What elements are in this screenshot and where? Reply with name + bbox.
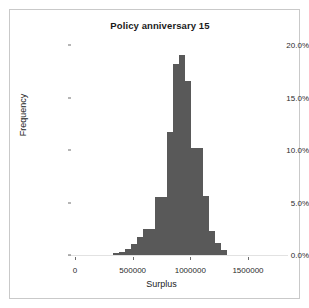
- x-tick-mark-3: [248, 257, 249, 260]
- y-tick-mark-0: [68, 255, 71, 256]
- y-tick-label-2: 10.0%: [263, 146, 309, 155]
- y-tick-mark-4: [68, 45, 71, 46]
- y-tick-mark-2: [68, 150, 71, 151]
- y-tick-mark-1: [68, 202, 71, 203]
- histogram-figure: Policy anniversary 15 Frequency 0.0% 5.0…: [0, 0, 309, 308]
- chart-title: Policy anniversary 15: [60, 20, 260, 31]
- x-axis-baseline: [68, 255, 288, 256]
- y-tick-label-4: 20.0%: [263, 41, 309, 50]
- y-tick-label-1: 5.0%: [263, 198, 309, 207]
- x-tick-mark-0: [75, 257, 76, 260]
- histogram-bar: [221, 250, 227, 255]
- x-axis-label: Surplus: [75, 279, 248, 289]
- x-tick-mark-1: [133, 257, 134, 260]
- y-tick-mark-3: [68, 97, 71, 98]
- y-axis-label: Frequency: [18, 70, 28, 160]
- x-tick-label-3: 1500000: [213, 266, 283, 275]
- histogram-bars: [75, 45, 248, 255]
- y-tick-label-3: 15.0%: [263, 93, 309, 102]
- y-tick-label-0: 0.0%: [263, 251, 309, 260]
- x-tick-mark-2: [190, 257, 191, 260]
- plot-area: [75, 45, 248, 255]
